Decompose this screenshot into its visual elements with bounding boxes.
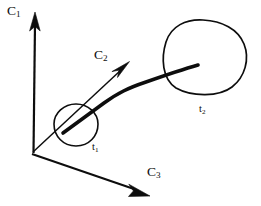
trajectory-path: [63, 65, 198, 133]
axis-label-c2-subscript: 2: [103, 53, 108, 63]
axis-c2: [33, 62, 130, 153]
region-label-t2: t2: [199, 104, 205, 115]
region-label-t1: t1: [92, 142, 98, 153]
axis-label-c1-subscript: 1: [16, 9, 21, 19]
region-label-t2-subscript: 2: [202, 108, 206, 116]
region-t2-outline: [163, 20, 246, 95]
axis-label-c1-base: C: [7, 3, 16, 18]
figure-canvas: C1 C2 C3 t1 t2: [0, 0, 261, 206]
axis-label-c3-subscript: 3: [156, 170, 161, 180]
axis-label-c3: C3: [147, 165, 161, 179]
region-label-t1-subscript: 1: [95, 146, 99, 154]
axis-c3-arrowhead: [129, 184, 151, 196]
axis-c1: [30, 12, 41, 153]
axis-c2-shaft: [33, 70, 121, 152]
axis-c3-shaft: [32, 154, 134, 189]
axis-c3: [32, 154, 150, 197]
axis-label-c2: C2: [94, 48, 108, 62]
diagram-svg: [0, 0, 261, 206]
axis-label-c3-base: C: [147, 164, 156, 179]
axis-c1-shaft: [34, 24, 36, 153]
axis-label-c1: C1: [7, 4, 21, 18]
axis-label-c2-base: C: [94, 47, 103, 62]
